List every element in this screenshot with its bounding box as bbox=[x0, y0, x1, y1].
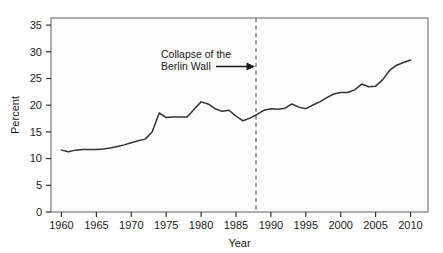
y-tick-label-35: 35 bbox=[30, 19, 42, 31]
y-axis: 0 5 10 15 20 25 30 35 bbox=[30, 19, 51, 218]
x-tick-label-2010: 2010 bbox=[398, 219, 422, 231]
y-tick-label-5: 5 bbox=[36, 179, 42, 191]
x-tick-label-1980: 1980 bbox=[189, 219, 213, 231]
x-tick-label-1970: 1970 bbox=[119, 219, 143, 231]
plot-background bbox=[51, 18, 428, 212]
annotation-line-2: Berlin Wall bbox=[161, 60, 211, 72]
x-tick-label-1960: 1960 bbox=[49, 219, 73, 231]
x-tick-label-1990: 1990 bbox=[259, 219, 283, 231]
x-tick-label-1995: 1995 bbox=[294, 219, 318, 231]
x-axis-title: Year bbox=[228, 237, 251, 249]
y-tick-label-0: 0 bbox=[36, 206, 42, 218]
x-axis: 1960 1965 1970 1975 1980 1985 1990 1995 … bbox=[49, 212, 422, 231]
x-tick-label-2000: 2000 bbox=[328, 219, 352, 231]
chart-figure: 0 5 10 15 20 25 30 35 1960 1965 1970 bbox=[0, 0, 443, 253]
y-tick-label-15: 15 bbox=[30, 126, 42, 138]
x-tick-label-1965: 1965 bbox=[84, 219, 108, 231]
y-tick-label-25: 25 bbox=[30, 72, 42, 84]
y-tick-label-10: 10 bbox=[30, 152, 42, 164]
y-tick-label-30: 30 bbox=[30, 46, 42, 58]
x-tick-label-1975: 1975 bbox=[154, 219, 178, 231]
y-axis-title: Percent bbox=[9, 96, 21, 134]
line-chart-svg: 0 5 10 15 20 25 30 35 1960 1965 1970 bbox=[0, 0, 443, 253]
x-tick-label-1985: 1985 bbox=[224, 219, 248, 231]
x-tick-label-2005: 2005 bbox=[363, 219, 387, 231]
annotation-line-1: Collapse of the bbox=[161, 48, 231, 60]
y-tick-label-20: 20 bbox=[30, 99, 42, 111]
